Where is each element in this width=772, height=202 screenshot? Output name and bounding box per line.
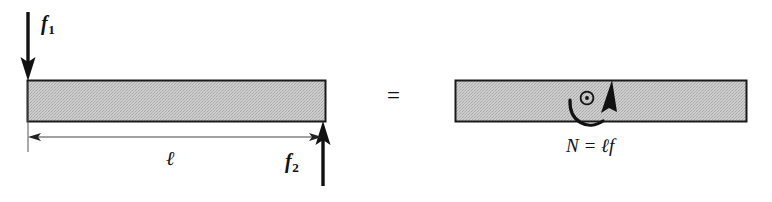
dimension-line-ell bbox=[28, 133, 322, 141]
force-f2-subscript: 2 bbox=[292, 160, 299, 175]
moment-equation-label: N = ℓf bbox=[566, 136, 614, 155]
dimension-ell-label: ℓ bbox=[166, 148, 174, 168]
force-f2-symbol: f bbox=[285, 150, 292, 172]
left-panel-group bbox=[21, 12, 331, 186]
right-beam-bar bbox=[456, 81, 747, 122]
force-f2-arrow bbox=[316, 121, 331, 186]
left-beam-bar bbox=[28, 81, 326, 122]
right-panel-group bbox=[456, 80, 747, 125]
force-f1-subscript: 1 bbox=[48, 22, 55, 37]
force-f1-symbol: f bbox=[41, 12, 48, 34]
diagram-canvas bbox=[0, 0, 772, 202]
force-f1-label: f1 bbox=[41, 13, 55, 36]
force-f2-label: f2 bbox=[285, 151, 299, 174]
beam-equivalence-figure: f1 f2 ℓ = N = ℓf bbox=[0, 0, 772, 202]
force-f1-arrow bbox=[21, 12, 36, 81]
equals-sign: = bbox=[387, 84, 400, 107]
